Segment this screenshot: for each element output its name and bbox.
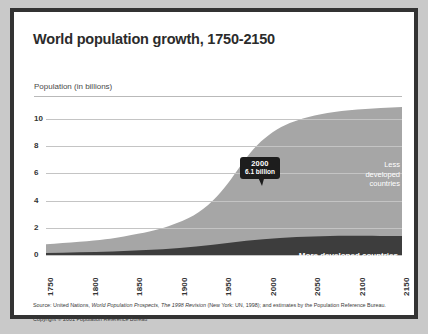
x-tick-2150: 2150 bbox=[402, 277, 411, 296]
x-tick-1850: 1850 bbox=[135, 277, 144, 296]
y-tick-10: 10 bbox=[34, 115, 46, 123]
gridline-6 bbox=[46, 173, 402, 174]
y-tick-6: 6 bbox=[34, 169, 46, 177]
axis-top-rule bbox=[34, 96, 402, 97]
y-tick-8: 8 bbox=[34, 142, 46, 150]
chart-frame: World population growth, 1750-2150 Popul… bbox=[10, 8, 418, 319]
x-tick-1900: 1900 bbox=[180, 277, 189, 296]
stacked-area-svg bbox=[46, 105, 402, 255]
y-tick-0: 0 bbox=[34, 251, 46, 259]
source-note: Source: United Nations, World Population… bbox=[33, 302, 397, 309]
x-tick-1800: 1800 bbox=[91, 277, 100, 296]
x-tick-2050: 2050 bbox=[313, 277, 322, 296]
page-title: World population growth, 1750-2150 bbox=[33, 31, 275, 47]
callout-pointer bbox=[257, 175, 265, 186]
y-tick-4: 4 bbox=[34, 197, 46, 205]
gridline-4 bbox=[46, 201, 402, 202]
x-axis: 175018001850190019502000205021002150 bbox=[46, 264, 402, 300]
x-tick-2000: 2000 bbox=[269, 277, 278, 296]
x-tick-2100: 2100 bbox=[358, 277, 367, 296]
x-tick-1950: 1950 bbox=[224, 277, 233, 296]
source-prefix: Source: United Nations, bbox=[33, 302, 91, 308]
y-axis-label: Population (in billions) bbox=[34, 82, 112, 91]
y-tick-2: 2 bbox=[34, 224, 46, 232]
gridline-8 bbox=[46, 146, 402, 147]
chart-panel: World population growth, 1750-2150 Popul… bbox=[14, 12, 414, 315]
more-developed-label: More developed countries bbox=[299, 251, 398, 260]
gridline-2 bbox=[46, 228, 402, 229]
screenshot-root: World population growth, 1750-2150 Popul… bbox=[0, 0, 428, 334]
x-tick-1750: 1750 bbox=[46, 277, 55, 296]
area-series-wrap bbox=[46, 105, 402, 255]
less-developed-area bbox=[46, 107, 402, 255]
callout-year: 2000 bbox=[245, 159, 275, 168]
source-suffix: (New York: UN, 1998); and estimates by t… bbox=[206, 302, 386, 308]
source-title: World Population Prospects, The 1998 Rev… bbox=[91, 302, 205, 308]
copyright-note: Copyright © 2001 Population Reference Bu… bbox=[33, 316, 147, 323]
less-developed-label: Less developed countries bbox=[365, 160, 400, 189]
footer-separator bbox=[33, 300, 401, 301]
gridline-10 bbox=[46, 119, 402, 120]
plot-area: 0246810 bbox=[34, 105, 402, 255]
